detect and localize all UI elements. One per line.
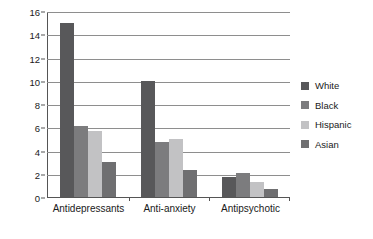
x-axis-label-anti-anxiety: Anti-anxiety	[129, 203, 210, 214]
bar-asian-antidepressants[interactable]	[102, 162, 116, 197]
x-axis-group-separator	[209, 197, 210, 201]
y-axis-tick-mark	[41, 58, 45, 59]
x-axis-group-separator	[289, 197, 290, 201]
y-axis-tick-mark	[41, 12, 45, 13]
bar-black-antidepressants[interactable]	[74, 126, 88, 197]
bar-chart: U.S adults reporting use (%) 02468101214…	[0, 0, 373, 239]
y-axis-tick-label: 14	[29, 30, 40, 41]
x-axis-line	[47, 197, 290, 198]
bar-hispanic-anti-anxiety[interactable]	[169, 139, 183, 197]
legend-label: White	[315, 80, 339, 91]
legend-item-asian[interactable]: Asian	[301, 139, 351, 150]
y-axis-tick-label: 8	[35, 100, 40, 111]
bar-white-antidepressants[interactable]	[60, 23, 74, 197]
y-axis-tick-label: 10	[29, 76, 40, 87]
legend: WhiteBlackHispanicAsian	[301, 80, 351, 150]
x-axis-label-antipsychotic: Antipsychotic	[210, 203, 291, 214]
bar-group-bars	[129, 12, 210, 197]
y-axis-tick-label: 16	[29, 7, 40, 18]
legend-label: Asian	[315, 139, 339, 150]
bar-group-bars	[209, 12, 290, 197]
bar-black-antipsychotic[interactable]	[236, 173, 250, 197]
bar-group	[48, 12, 129, 197]
y-axis-tick-mark	[41, 35, 45, 36]
x-axis-category-labels: AntidepressantsAnti-anxietyAntipsychotic	[48, 203, 291, 214]
bar-white-antipsychotic[interactable]	[222, 177, 236, 197]
bar-group	[129, 12, 210, 197]
y-axis-tick-labels: 0246810121416	[22, 12, 44, 198]
legend-swatch-icon	[301, 140, 309, 148]
legend-swatch-icon	[301, 121, 309, 129]
bar-group-bars	[48, 12, 129, 197]
bar-groups	[48, 12, 290, 197]
y-axis-tick-mark	[41, 198, 45, 199]
y-axis-tick-mark	[41, 128, 45, 129]
y-axis-tick-mark	[41, 105, 45, 106]
x-axis-label-antidepressants: Antidepressants	[48, 203, 129, 214]
bar-white-anti-anxiety[interactable]	[141, 81, 155, 197]
y-axis-title: U.S adults reporting use (%)	[2, 0, 24, 23]
y-axis-tick-label: 4	[35, 146, 40, 157]
y-axis-tick-label: 6	[35, 123, 40, 134]
bar-group	[209, 12, 290, 197]
legend-item-hispanic[interactable]: Hispanic	[301, 119, 351, 130]
plot-area	[47, 12, 290, 198]
legend-label: Hispanic	[315, 119, 351, 130]
legend-label: Black	[315, 100, 338, 111]
y-axis-tick-mark	[41, 81, 45, 82]
bar-hispanic-antidepressants[interactable]	[88, 131, 102, 197]
bar-asian-anti-anxiety[interactable]	[183, 170, 197, 197]
legend-item-white[interactable]: White	[301, 80, 351, 91]
x-axis-group-separator	[129, 197, 130, 201]
y-axis-tick-mark	[41, 174, 45, 175]
bar-hispanic-antipsychotic[interactable]	[250, 182, 264, 197]
y-axis-tick-label: 2	[35, 169, 40, 180]
legend-swatch-icon	[301, 82, 309, 90]
bar-black-anti-anxiety[interactable]	[155, 142, 169, 197]
y-axis-tick-label: 12	[29, 53, 40, 64]
y-axis-tick-label: 0	[35, 193, 40, 204]
bar-asian-antipsychotic[interactable]	[264, 189, 278, 197]
y-axis-tick-mark	[41, 151, 45, 152]
legend-swatch-icon	[301, 101, 309, 109]
legend-item-black[interactable]: Black	[301, 100, 351, 111]
